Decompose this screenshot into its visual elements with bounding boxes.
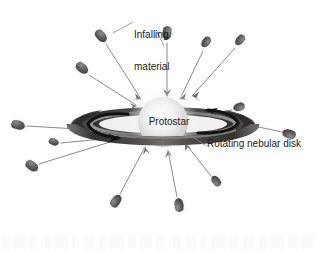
scan-artifact-mark bbox=[243, 236, 254, 249]
arrowhead-right-upper bbox=[192, 92, 201, 101]
blob-left-bottom bbox=[19, 154, 45, 179]
blob-top-right bbox=[195, 31, 217, 54]
scan-artifact-mark bbox=[259, 236, 266, 249]
scan-artifact-mark bbox=[288, 236, 297, 249]
scan-artifact-mark bbox=[72, 236, 79, 249]
blob-left-lower bbox=[44, 133, 64, 151]
scan-artifact-mark bbox=[141, 236, 152, 249]
scan-artifact-mark bbox=[84, 236, 94, 249]
scan-artifact-mark bbox=[128, 236, 136, 249]
scan-artifact-mark bbox=[41, 236, 50, 249]
scan-artifact-mark bbox=[30, 236, 36, 249]
blob-top-left-far bbox=[88, 23, 113, 49]
astronomy-diagram-protostar: Infalling material Protostar Rotating ne… bbox=[0, 0, 317, 253]
scan-artifact-mark bbox=[186, 236, 195, 249]
blob-bottom-center bbox=[170, 194, 188, 215]
arrow-line-right-upper bbox=[192, 48, 235, 96]
label-infalling-line2: material bbox=[134, 62, 170, 73]
scan-artifact-mark bbox=[157, 236, 164, 249]
arrow-line-top-right bbox=[180, 51, 203, 99]
scan-artifact-mark bbox=[302, 236, 313, 249]
scan-artifact-mark bbox=[200, 236, 206, 249]
blob-right-upper bbox=[229, 29, 251, 52]
scan-artifact-mark bbox=[169, 236, 181, 249]
scan-artifact-mark bbox=[110, 236, 123, 249]
label-rotating-nebular-disk: Rotating nebular disk bbox=[207, 139, 301, 150]
scan-artifact-mark bbox=[211, 236, 225, 249]
blob-bottom-left bbox=[104, 188, 129, 214]
label-infalling-material: Infalling material bbox=[134, 8, 170, 94]
scan-artifact-mark bbox=[99, 236, 105, 249]
scan-artifact-strip bbox=[0, 236, 317, 249]
scan-artifact-mark bbox=[271, 236, 283, 249]
label-infalling-line1: Infalling bbox=[134, 30, 170, 41]
label-protostar: Protostar bbox=[134, 117, 204, 128]
scan-artifact-mark bbox=[2, 236, 9, 249]
blob-left-mid bbox=[7, 115, 30, 135]
leader-infalling-left bbox=[113, 22, 133, 33]
blob-upper-left bbox=[69, 55, 95, 80]
scan-artifact-mark bbox=[230, 236, 238, 249]
arrow-line-bottom-left bbox=[120, 147, 145, 194]
scan-artifact-mark bbox=[55, 236, 67, 249]
scan-artifact-mark bbox=[14, 236, 25, 249]
